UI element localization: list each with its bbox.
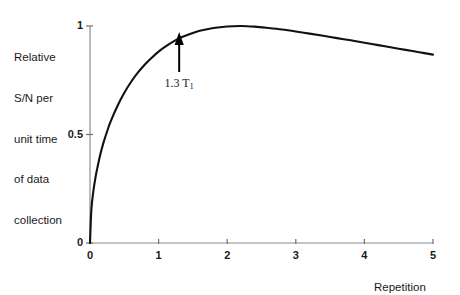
annotation-arrow-head	[175, 32, 184, 45]
x-axis-label-line-1: Repetition	[374, 281, 460, 295]
y-axis-label-line-1: Relative	[14, 51, 92, 65]
y-tick-label: 0	[52, 236, 83, 249]
y-tick-label: 1	[52, 19, 83, 32]
x-tick-label: 2	[213, 249, 241, 262]
y-axis-label-line-5: collection	[14, 214, 92, 228]
x-tick-label: 4	[350, 249, 378, 262]
peak-annotation-sub: 1	[190, 81, 194, 91]
x-tick-label: 3	[282, 249, 310, 262]
y-axis-label-line-2: S/N per	[14, 92, 92, 106]
x-tick-label: 1	[145, 249, 173, 262]
peak-annotation-label: 1.3 T1	[149, 76, 209, 91]
axes-group	[90, 26, 433, 243]
peak-annotation-value: 1.3 T	[164, 76, 189, 90]
y-axis-label-line-4: of data	[14, 173, 92, 187]
x-axis-label: Repetition time (tr/T1)	[374, 254, 460, 295]
data-curve	[90, 26, 433, 243]
x-tick-label: 0	[76, 249, 104, 262]
chart-figure: Relative S/N per unit time of data colle…	[0, 0, 460, 295]
y-tick-label: 0.5	[52, 128, 83, 141]
x-tick-label: 5	[419, 249, 447, 262]
